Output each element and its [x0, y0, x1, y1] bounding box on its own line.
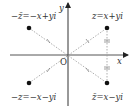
label-neg-z: −z=−x−yi	[11, 92, 57, 102]
label-conj: z̄=x−yi	[91, 92, 123, 102]
complex-plane-diagram: z=x+yi −z̄=−x+yi −z=−x−yi z̄=x−yi y x O	[0, 0, 137, 109]
point-conj	[105, 81, 110, 86]
point-z	[105, 26, 110, 31]
label-z: z=x+yi	[91, 11, 123, 21]
y-axis-label: y	[58, 3, 64, 13]
point-neg-conj	[27, 26, 32, 31]
x-axis-label: x	[117, 56, 122, 66]
point-neg-z	[27, 81, 32, 86]
label-neg-conj: −z̄=−x+yi	[11, 11, 57, 21]
origin-label: O	[60, 57, 67, 67]
